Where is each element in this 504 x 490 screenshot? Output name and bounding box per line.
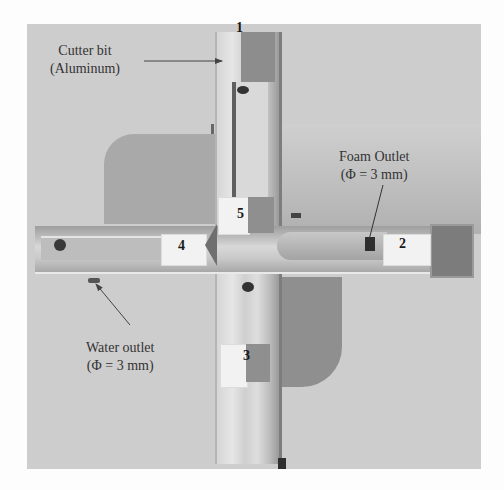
leader-lines — [0, 0, 504, 490]
water-outlet-arrow — [96, 284, 130, 325]
foam-outlet-leader — [369, 185, 383, 240]
